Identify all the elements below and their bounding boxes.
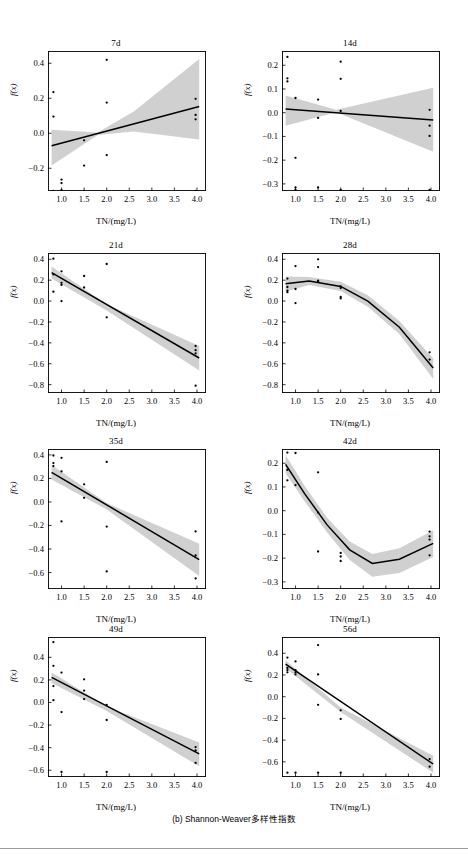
data-point — [106, 263, 108, 265]
data-point — [60, 470, 62, 472]
x-tick-label: 1.0 — [284, 592, 308, 602]
x-tick-label: 2.0 — [329, 194, 353, 204]
data-point — [340, 560, 342, 562]
confidence-band — [52, 672, 200, 766]
data-point — [286, 667, 288, 669]
data-point — [317, 258, 319, 260]
x-axis-label: TN/(mg/L) — [240, 802, 460, 812]
panel-42d: 42df(x)TN/(mg/L)1.01.52.02.53.03.54.00.2… — [240, 436, 460, 633]
x-axis-label: TN/(mg/L) — [240, 216, 460, 226]
data-point — [60, 300, 62, 302]
data-point — [294, 452, 296, 454]
data-point — [428, 538, 430, 540]
plot-svg — [48, 253, 206, 393]
data-point — [194, 118, 196, 120]
y-tick-label: −0.3 — [248, 179, 278, 189]
fit-line — [52, 677, 200, 754]
y-tick-label: 0.2 — [14, 93, 44, 103]
y-tick-label: 0.4 — [14, 254, 44, 264]
data-point — [106, 154, 108, 156]
data-point — [294, 288, 296, 290]
panel-title: 56d — [240, 624, 460, 634]
data-point — [294, 302, 296, 304]
data-point — [294, 97, 296, 99]
data-point — [52, 685, 54, 687]
x-tick-label: 3.5 — [396, 780, 420, 790]
y-tick-label: 0.2 — [248, 670, 278, 680]
x-tick-label: 3.5 — [162, 780, 186, 790]
x-tick-label: 1.5 — [306, 396, 330, 406]
x-tick-label: 2.0 — [329, 780, 353, 790]
x-tick-label: 2.5 — [351, 194, 375, 204]
x-tick-label: 2.0 — [329, 396, 353, 406]
x-tick-label: 3.5 — [396, 592, 420, 602]
x-tick-label: 1.5 — [72, 194, 96, 204]
data-point — [317, 673, 319, 675]
plot-area — [282, 637, 440, 777]
x-axis-label: TN/(mg/L) — [240, 418, 460, 428]
x-axis-label: TN/(mg/L) — [6, 614, 226, 624]
data-point — [428, 135, 430, 137]
plot-area — [282, 51, 440, 191]
x-tick-label: 2.5 — [351, 780, 375, 790]
data-point — [194, 746, 196, 748]
data-point — [106, 101, 108, 103]
data-point — [52, 454, 54, 456]
y-tick-label: 0.2 — [248, 458, 278, 468]
data-point — [317, 704, 319, 706]
plot-area — [48, 637, 206, 777]
panel-7d: 7df(x)TN/(mg/L)1.01.52.02.53.03.54.00.40… — [6, 38, 226, 235]
y-tick-label: 0.2 — [248, 60, 278, 70]
data-point — [52, 115, 54, 117]
data-point — [317, 511, 319, 513]
x-tick-label: 2.5 — [117, 396, 141, 406]
footer-rule — [0, 848, 468, 849]
y-tick-label: −0.2 — [248, 317, 278, 327]
y-tick-label: 0.4 — [14, 652, 44, 662]
y-tick-label: −0.2 — [14, 317, 44, 327]
y-tick-label: 0.2 — [248, 275, 278, 285]
x-tick-label: 1.0 — [50, 194, 74, 204]
data-point — [194, 530, 196, 532]
plot-area — [282, 449, 440, 589]
data-point — [52, 273, 54, 275]
panel-title: 49d — [6, 624, 226, 634]
x-tick-label: 1.0 — [284, 194, 308, 204]
y-tick-label: −0.4 — [14, 743, 44, 753]
x-tick-label: 4.0 — [419, 396, 443, 406]
data-point — [83, 497, 85, 499]
data-point — [340, 110, 342, 112]
x-tick-label: 4.0 — [185, 194, 209, 204]
data-point — [317, 471, 319, 473]
x-tick-label: 3.5 — [162, 194, 186, 204]
x-tick-label: 3.0 — [140, 780, 164, 790]
data-point — [294, 484, 296, 486]
plot-svg — [282, 253, 440, 393]
fit-line — [52, 273, 200, 358]
x-tick-label: 1.0 — [284, 780, 308, 790]
data-point — [52, 91, 54, 93]
x-tick-label: 4.0 — [185, 592, 209, 602]
y-tick-label: 0.2 — [14, 473, 44, 483]
x-tick-label: 1.0 — [50, 396, 74, 406]
data-point — [52, 641, 54, 643]
data-point — [106, 704, 108, 706]
x-tick-label: 1.0 — [50, 780, 74, 790]
data-point — [286, 671, 288, 673]
y-tick-label: −0.6 — [14, 765, 44, 775]
data-point — [286, 656, 288, 658]
data-point — [294, 671, 296, 673]
panel-title: 28d — [240, 240, 460, 250]
data-point — [106, 525, 108, 527]
data-point — [286, 80, 288, 82]
figure-shannon-weaver-panels: 7df(x)TN/(mg/L)1.01.52.02.53.03.54.00.40… — [0, 0, 468, 856]
x-tick-label: 2.5 — [117, 592, 141, 602]
y-tick-label: −0.4 — [248, 338, 278, 348]
data-point — [60, 282, 62, 284]
data-point — [60, 284, 62, 286]
y-tick-label: −0.2 — [14, 720, 44, 730]
y-tick-label: 0.1 — [248, 84, 278, 94]
panel-title: 42d — [240, 436, 460, 446]
x-tick-label: 1.5 — [72, 592, 96, 602]
data-point — [83, 286, 85, 288]
